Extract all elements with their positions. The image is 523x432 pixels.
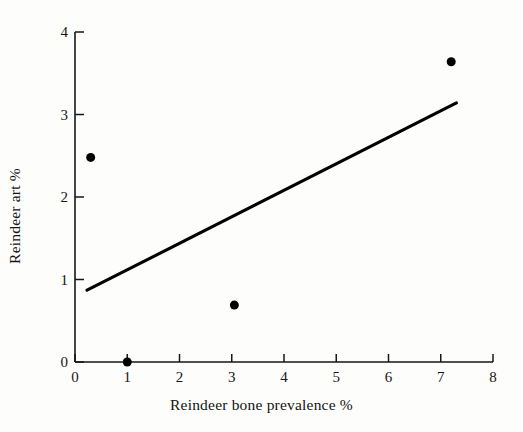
x-tick-label-4: 4	[280, 370, 288, 385]
data-point[interactable]	[447, 57, 456, 66]
y-tick-label-2: 2	[52, 190, 68, 205]
x-tick-label-6: 6	[385, 370, 393, 385]
y-tick-label-1: 1	[52, 272, 68, 287]
x-tick-label-3: 3	[228, 370, 236, 385]
x-tick-label-2: 2	[176, 370, 184, 385]
y-axis-title: Reindeer art %	[0, 0, 30, 432]
data-point[interactable]	[86, 153, 95, 162]
data-point[interactable]	[230, 301, 239, 310]
scatter-plot-figure: 0 1 2 3 4 5 6 7 8 0 1 2 3 4 Reindeer bon…	[0, 0, 523, 432]
trend-line	[87, 103, 456, 290]
y-tick-label-4: 4	[52, 25, 68, 40]
x-tick-label-5: 5	[333, 370, 341, 385]
plot-canvas	[0, 0, 523, 432]
x-tick-label-1: 1	[124, 370, 132, 385]
x-axis-ticks	[75, 354, 493, 362]
x-axis-title: Reindeer bone prevalence %	[0, 396, 523, 414]
x-tick-label-7: 7	[437, 370, 445, 385]
x-tick-label-8: 8	[489, 370, 497, 385]
y-tick-label-3: 3	[52, 107, 68, 122]
axis-lines	[75, 32, 493, 362]
x-tick-label-0: 0	[71, 370, 79, 385]
y-axis-ticks	[75, 32, 84, 362]
y-tick-label-0: 0	[52, 355, 68, 370]
data-point-group	[86, 57, 456, 366]
data-point[interactable]	[123, 358, 132, 367]
